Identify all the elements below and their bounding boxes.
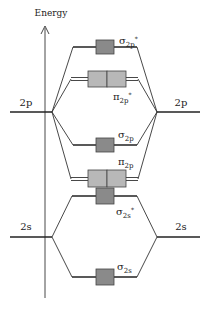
orbital-box bbox=[96, 40, 114, 54]
mo-label: π2p bbox=[118, 156, 134, 170]
mo-pi-2p-star: π2p* bbox=[71, 71, 138, 105]
orbital-box bbox=[88, 71, 107, 87]
left-2p-label: 2p bbox=[20, 97, 33, 108]
mo-label: σ2s bbox=[117, 261, 132, 275]
mo-label: σ2s* bbox=[116, 206, 134, 220]
left-2s-label: 2s bbox=[20, 221, 32, 232]
orbital-box bbox=[96, 188, 114, 204]
orbital-box bbox=[96, 138, 114, 152]
correlation-lines-2p bbox=[52, 47, 157, 179]
orbital-box bbox=[96, 269, 114, 285]
right-atomic-orbitals: 2p 2s bbox=[157, 97, 200, 237]
mo-label: σ2p bbox=[118, 129, 134, 143]
mo-sigma-2p: σ2p bbox=[73, 129, 137, 152]
mo-pi-2p: π2p bbox=[71, 156, 138, 187]
mo-sigma-2s: σ2s bbox=[72, 261, 137, 285]
mo-sigma-2p-star: σ2p* bbox=[73, 35, 138, 54]
orbital-box bbox=[88, 170, 107, 187]
correlation-lines-2s bbox=[52, 196, 157, 277]
mo-sigma-2s-star: σ2s* bbox=[72, 188, 137, 220]
mo-label: π2p* bbox=[113, 91, 132, 105]
energy-axis-label: Energy bbox=[35, 8, 69, 18]
orbital-box bbox=[107, 71, 126, 87]
right-2s-label: 2s bbox=[175, 221, 187, 232]
right-2p-label: 2p bbox=[175, 97, 188, 108]
orbital-box bbox=[107, 170, 126, 187]
left-atomic-orbitals: 2p 2s bbox=[10, 97, 52, 237]
mo-diagram: Energy 2p 2s 2p 2s σ2p* bbox=[0, 0, 210, 310]
